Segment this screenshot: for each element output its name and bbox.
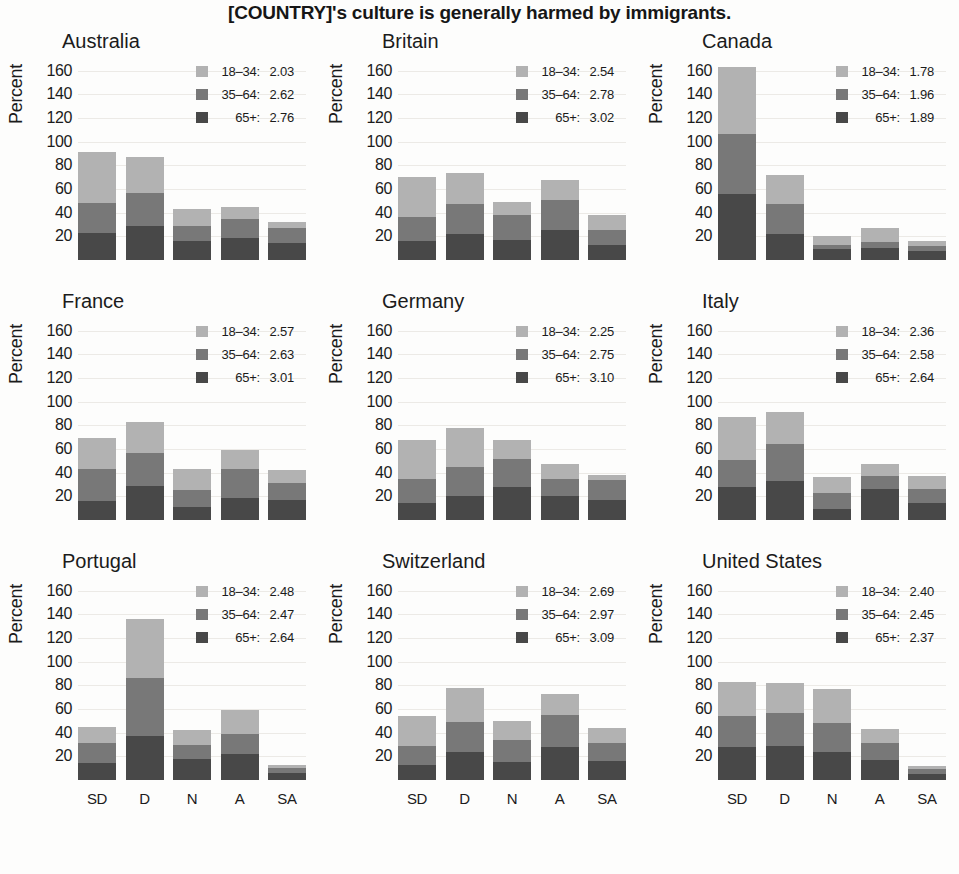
bar-segment-s35[interactable] xyxy=(908,489,946,503)
stacked-bar-d[interactable] xyxy=(446,688,484,780)
bar-segment-s18[interactable] xyxy=(861,228,899,242)
bar-segment-s35[interactable] xyxy=(718,460,756,487)
bar-segment-s35[interactable] xyxy=(221,219,259,238)
bar-segment-s65[interactable] xyxy=(861,760,899,780)
stacked-bar-sa[interactable] xyxy=(588,215,626,260)
stacked-bar-a[interactable] xyxy=(221,450,259,520)
bar-segment-s35[interactable] xyxy=(588,230,626,244)
bar-segment-s18[interactable] xyxy=(541,180,579,200)
bar-segment-s65[interactable] xyxy=(268,500,306,520)
stacked-bar-a[interactable] xyxy=(541,464,579,520)
bar-segment-s18[interactable] xyxy=(718,682,756,716)
bar-segment-s65[interactable] xyxy=(173,507,211,520)
bar-segment-s35[interactable] xyxy=(813,493,851,510)
stacked-bar-a[interactable] xyxy=(861,729,899,780)
bar-segment-s65[interactable] xyxy=(861,489,899,520)
stacked-bar-a[interactable] xyxy=(221,710,259,780)
stacked-bar-sd[interactable] xyxy=(398,177,436,260)
bar-segment-s65[interactable] xyxy=(766,234,804,260)
bar-segment-s65[interactable] xyxy=(766,746,804,780)
stacked-bar-d[interactable] xyxy=(126,619,164,780)
bar-segment-s18[interactable] xyxy=(493,202,531,215)
bar-segment-s65[interactable] xyxy=(908,774,946,780)
bar-segment-s65[interactable] xyxy=(398,503,436,520)
bar-segment-s18[interactable] xyxy=(718,67,756,133)
bar-segment-s35[interactable] xyxy=(588,743,626,761)
bar-segment-s65[interactable] xyxy=(221,754,259,780)
bar-segment-s18[interactable] xyxy=(588,728,626,743)
bar-segment-s18[interactable] xyxy=(221,450,259,469)
bar-segment-s35[interactable] xyxy=(541,715,579,747)
bar-segment-s18[interactable] xyxy=(493,440,531,459)
stacked-bar-a[interactable] xyxy=(541,180,579,260)
bar-segment-s18[interactable] xyxy=(813,236,851,244)
stacked-bar-sd[interactable] xyxy=(78,152,116,260)
bar-segment-s18[interactable] xyxy=(861,729,899,743)
stacked-bar-n[interactable] xyxy=(813,477,851,520)
bar-segment-s35[interactable] xyxy=(446,467,484,497)
bar-segment-s65[interactable] xyxy=(78,233,116,260)
bar-segment-s35[interactable] xyxy=(221,469,259,497)
stacked-bar-n[interactable] xyxy=(493,202,531,260)
bar-segment-s35[interactable] xyxy=(493,459,531,487)
stacked-bar-sd[interactable] xyxy=(398,716,436,780)
bar-segment-s18[interactable] xyxy=(126,619,164,678)
bar-segment-s65[interactable] xyxy=(541,496,579,520)
bar-segment-s18[interactable] xyxy=(78,727,116,744)
bar-segment-s35[interactable] xyxy=(221,734,259,754)
bar-segment-s35[interactable] xyxy=(173,490,211,507)
bar-segment-s65[interactable] xyxy=(718,747,756,780)
bar-segment-s18[interactable] xyxy=(173,209,211,226)
bar-segment-s18[interactable] xyxy=(766,683,804,713)
stacked-bar-sa[interactable] xyxy=(908,476,946,520)
stacked-bar-d[interactable] xyxy=(446,428,484,520)
bar-segment-s65[interactable] xyxy=(78,501,116,520)
stacked-bar-n[interactable] xyxy=(813,689,851,780)
bar-segment-s18[interactable] xyxy=(813,477,851,492)
bar-segment-s18[interactable] xyxy=(718,417,756,460)
bar-segment-s18[interactable] xyxy=(398,440,436,479)
stacked-bar-sd[interactable] xyxy=(718,417,756,520)
bar-segment-s18[interactable] xyxy=(446,173,484,205)
bar-segment-s35[interactable] xyxy=(268,228,306,243)
stacked-bar-a[interactable] xyxy=(861,228,899,260)
bar-segment-s35[interactable] xyxy=(446,722,484,752)
bar-segment-s65[interactable] xyxy=(126,226,164,260)
bar-segment-s35[interactable] xyxy=(813,723,851,751)
bar-segment-s18[interactable] xyxy=(398,716,436,746)
stacked-bar-sa[interactable] xyxy=(588,728,626,780)
bar-segment-s65[interactable] xyxy=(173,759,211,780)
stacked-bar-d[interactable] xyxy=(766,412,804,520)
bar-segment-s18[interactable] xyxy=(446,428,484,467)
bar-segment-s35[interactable] xyxy=(268,483,306,500)
bar-segment-s65[interactable] xyxy=(78,763,116,780)
stacked-bar-sa[interactable] xyxy=(268,470,306,520)
stacked-bar-sd[interactable] xyxy=(718,682,756,780)
bar-segment-s35[interactable] xyxy=(78,743,116,763)
bar-segment-s65[interactable] xyxy=(398,765,436,780)
bar-segment-s65[interactable] xyxy=(861,248,899,260)
bar-segment-s18[interactable] xyxy=(861,464,899,476)
bar-segment-s18[interactable] xyxy=(493,721,531,740)
bar-segment-s18[interactable] xyxy=(221,207,259,219)
bar-segment-s35[interactable] xyxy=(126,678,164,736)
stacked-bar-a[interactable] xyxy=(541,694,579,780)
bar-segment-s35[interactable] xyxy=(173,745,211,759)
bar-segment-s35[interactable] xyxy=(126,193,164,226)
stacked-bar-n[interactable] xyxy=(493,721,531,780)
bar-segment-s65[interactable] xyxy=(541,230,579,260)
stacked-bar-sd[interactable] xyxy=(78,727,116,780)
bar-segment-s65[interactable] xyxy=(221,498,259,520)
stacked-bar-a[interactable] xyxy=(861,464,899,520)
bar-segment-s65[interactable] xyxy=(908,503,946,520)
bar-segment-s35[interactable] xyxy=(398,217,436,241)
stacked-bar-sa[interactable] xyxy=(588,475,626,520)
stacked-bar-n[interactable] xyxy=(493,440,531,520)
bar-segment-s18[interactable] xyxy=(126,422,164,453)
bar-segment-s65[interactable] xyxy=(268,243,306,260)
stacked-bar-sa[interactable] xyxy=(908,766,946,780)
bar-segment-s35[interactable] xyxy=(78,469,116,501)
bar-segment-s65[interactable] xyxy=(588,245,626,260)
bar-segment-s35[interactable] xyxy=(861,476,899,489)
bar-segment-s18[interactable] xyxy=(221,710,259,734)
